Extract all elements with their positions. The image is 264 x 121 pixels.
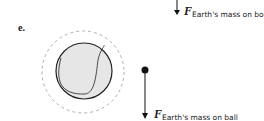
- force-symbol: F: [154, 107, 162, 121]
- bottom-arrow: [142, 70, 148, 119]
- tennis-ball: [56, 43, 112, 99]
- top-force-label: FEarth's mass on book: [184, 1, 264, 19]
- top-arrow: [174, 0, 180, 15]
- force-subscript: Earth's mass on ball: [162, 113, 238, 121]
- force-subscript: Earth's mass on book: [192, 10, 264, 19]
- force-symbol: F: [184, 4, 192, 18]
- part-label: e.: [18, 22, 25, 33]
- bottom-force-label: FEarth's mass on ball: [154, 104, 238, 121]
